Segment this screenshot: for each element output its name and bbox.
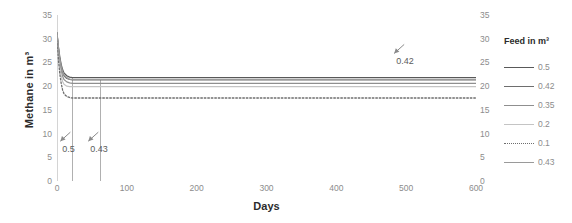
legend-item-0.5[interactable]: 0.5 xyxy=(504,57,572,76)
methane-feed-line-chart: Methane in m³ 05101520253035 05101520253… xyxy=(0,0,572,223)
y-tick-right-35: 35 xyxy=(478,10,500,20)
x-axis-tick-labels: 0100200300400500600 xyxy=(57,183,476,199)
legend-swatch-0.2 xyxy=(504,120,534,128)
legend-rows: 0.50.420.350.20.10.43 xyxy=(504,57,572,171)
x-tick-300: 300 xyxy=(259,183,273,193)
annotation-label-0.43: 0.43 xyxy=(90,144,108,154)
legend-swatch-0.1 xyxy=(504,139,534,147)
legend-swatch-0.43 xyxy=(504,158,534,166)
y-tick-left-20: 20 xyxy=(30,81,52,91)
legend-title: Feed in m³ xyxy=(504,36,572,46)
legend-item-0.1[interactable]: 0.1 xyxy=(504,133,572,152)
legend-label-0.2: 0.2 xyxy=(534,119,550,129)
y-tick-left-25: 25 xyxy=(30,57,52,67)
y-tick-left-35: 35 xyxy=(30,10,52,20)
y-tick-left-0: 0 xyxy=(30,176,52,186)
legend-item-0.42[interactable]: 0.42 xyxy=(504,76,572,95)
legend-item-0.35[interactable]: 0.35 xyxy=(504,95,572,114)
y-tick-right-10: 10 xyxy=(478,129,500,139)
y-tick-left-5: 5 xyxy=(30,152,52,162)
legend-label-0.42: 0.42 xyxy=(534,81,555,91)
series-line-0.5 xyxy=(57,33,476,78)
y-tick-right-25: 25 xyxy=(478,57,500,67)
y-tick-left-30: 30 xyxy=(30,34,52,44)
legend-label-0.1: 0.1 xyxy=(534,138,550,148)
x-tick-200: 200 xyxy=(190,183,204,193)
x-tick-600: 600 xyxy=(469,183,483,193)
y-axis-tick-labels-left: 05101520253035 xyxy=(30,0,52,223)
legend-swatch-0.5 xyxy=(504,63,534,71)
x-tick-400: 400 xyxy=(329,183,343,193)
plot-area xyxy=(57,15,476,181)
legend: Feed in m³ 0.50.420.350.20.10.43 xyxy=(504,36,572,171)
x-axis-title: Days xyxy=(57,200,476,212)
legend-item-0.43[interactable]: 0.43 xyxy=(504,152,572,171)
x-tick-0: 0 xyxy=(55,183,60,193)
plot-svg xyxy=(57,15,476,181)
y-tick-right-20: 20 xyxy=(478,81,500,91)
x-tick-500: 500 xyxy=(399,183,413,193)
legend-label-0.5: 0.5 xyxy=(534,62,550,72)
annotation-label-0.5: 0.5 xyxy=(62,144,75,154)
y-tick-right-30: 30 xyxy=(478,34,500,44)
x-tick-100: 100 xyxy=(120,183,134,193)
legend-swatch-0.35 xyxy=(504,101,534,109)
legend-swatch-0.42 xyxy=(504,82,534,90)
y-tick-left-10: 10 xyxy=(30,129,52,139)
y-tick-right-15: 15 xyxy=(478,105,500,115)
legend-label-0.43: 0.43 xyxy=(534,157,555,167)
legend-label-0.35: 0.35 xyxy=(534,100,555,110)
y-tick-right-5: 5 xyxy=(478,152,500,162)
annotation-label-0.42: 0.42 xyxy=(396,56,414,66)
y-tick-left-15: 15 xyxy=(30,105,52,115)
legend-item-0.2[interactable]: 0.2 xyxy=(504,114,572,133)
